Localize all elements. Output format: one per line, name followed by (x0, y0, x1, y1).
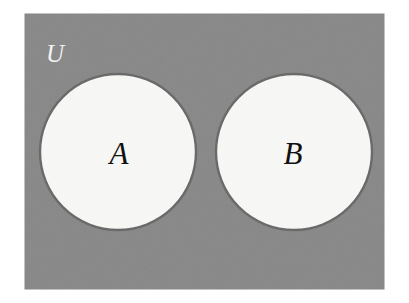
venn-diagram-figure: U A B (0, 0, 409, 303)
venn-diagram-canvas: U A B (0, 0, 409, 303)
universal-set-label: U (46, 40, 66, 67)
set-b-label: B (284, 136, 303, 171)
set-a-label: A (108, 136, 130, 171)
